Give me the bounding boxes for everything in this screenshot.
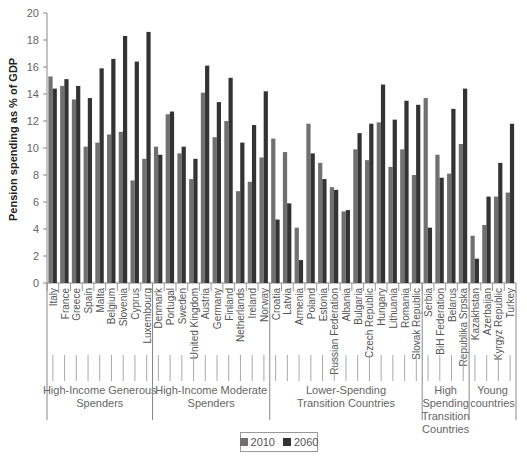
bar-2060 [88, 98, 92, 283]
bar-2010 [377, 122, 381, 283]
y-tick-label: 12 [27, 115, 39, 127]
bar-2060 [334, 190, 338, 283]
category-label: Republika Srpska [458, 288, 469, 367]
y-tick-label: 20 [27, 7, 39, 19]
bar-2060 [463, 89, 467, 283]
category-label: Norway [259, 288, 270, 322]
bar-2010 [259, 157, 263, 283]
bar-2060 [100, 68, 104, 283]
category-label: Lithuania [388, 288, 399, 329]
category-label: BiH Federation [435, 288, 446, 355]
category-label: United Kingdom [189, 288, 200, 359]
bar-2060 [275, 220, 279, 283]
bar-2010 [189, 179, 193, 283]
category-label: Poland [306, 288, 317, 319]
bar-2010 [318, 163, 322, 283]
category-label: Sweden [177, 288, 188, 324]
y-tick-label: 0 [33, 277, 39, 289]
bar-2060 [369, 124, 373, 283]
bar-2060 [311, 153, 315, 283]
bar-2010 [236, 191, 240, 283]
bar-2060 [393, 120, 397, 283]
category-label: Croatia [271, 288, 282, 321]
group-label: High-Income Generous [43, 384, 157, 396]
group-label: Spenders [188, 397, 236, 409]
bar-2010 [283, 152, 287, 283]
category-label: Austria [200, 288, 211, 320]
category-label: Latvia [282, 288, 293, 315]
category-label: Romania [400, 288, 411, 328]
group-label: Countries [422, 423, 470, 435]
legend-label-2060: 2060 [294, 436, 318, 448]
group-label: High-Income Moderate [155, 384, 267, 396]
bar-2010 [166, 114, 170, 283]
y-tick-label: 6 [33, 196, 39, 208]
bar-2060 [357, 133, 361, 283]
category-label: Estonia [318, 288, 329, 322]
bar-2010 [482, 225, 486, 283]
legend-item-2060: 2060 [283, 436, 318, 448]
category-label: Malta [95, 288, 106, 313]
bar-2010 [400, 149, 404, 283]
category-label: Denmark [153, 287, 164, 329]
chart-plot-area: 02468101214161820ItalyFranceGreeceSpainM… [0, 0, 527, 463]
group-label: Spenders [76, 397, 124, 409]
bar-2010 [471, 236, 475, 283]
category-label: Hungary [376, 288, 387, 326]
bar-2060 [475, 259, 479, 283]
category-label: Czech Republic [364, 288, 375, 358]
bar-2010 [84, 147, 88, 283]
category-label: Serbia [423, 288, 434, 317]
bar-2060 [451, 109, 455, 283]
group-label: Transition Countries [297, 397, 396, 409]
bar-2060 [146, 32, 150, 283]
category-label: Spain [83, 288, 94, 314]
bar-2060 [135, 62, 139, 283]
group-label: Spending [422, 397, 469, 409]
bar-2010 [224, 121, 228, 283]
group-label: Young [477, 384, 508, 396]
category-label: Netherlands [235, 288, 246, 342]
category-label: Ireland [247, 288, 258, 319]
bar-2060 [182, 147, 186, 283]
category-label: Cyprus [130, 288, 141, 320]
bar-2010 [201, 93, 205, 283]
bar-2060 [53, 89, 57, 283]
bar-2060 [264, 91, 268, 283]
bar-2010 [306, 124, 310, 283]
bar-2060 [299, 260, 303, 283]
y-tick-label: 2 [33, 250, 39, 262]
bar-2010 [295, 228, 299, 283]
group-label: countries [470, 397, 515, 409]
bar-2010 [459, 144, 463, 283]
bar-2010 [48, 76, 52, 283]
bar-2010 [412, 175, 416, 283]
bar-2010 [248, 182, 252, 283]
bar-2010 [353, 149, 357, 283]
category-label: France [60, 288, 71, 320]
bar-2010 [424, 98, 428, 283]
bar-2060 [205, 66, 209, 283]
bar-2010 [177, 153, 181, 283]
legend-swatch-2010 [240, 438, 248, 446]
bar-2060 [193, 159, 197, 283]
chart-legend: 2010 2060 [240, 432, 318, 452]
category-label: Azerbaijan [482, 288, 493, 335]
bar-2010 [72, 99, 76, 283]
bar-2060 [217, 102, 221, 283]
y-tick-label: 16 [27, 61, 39, 73]
y-tick-label: 8 [33, 169, 39, 181]
bar-2060 [440, 178, 444, 283]
bar-2010 [213, 137, 217, 283]
bar-2060 [252, 125, 256, 283]
y-tick-label: 10 [27, 142, 39, 154]
group-label: Lower-Spending [306, 384, 386, 396]
bar-2060 [76, 86, 80, 283]
bar-2060 [322, 179, 326, 283]
bar-2060 [158, 155, 162, 283]
bar-2060 [229, 78, 233, 283]
category-label: Slovak Republic [411, 288, 422, 360]
bar-2010 [142, 159, 146, 283]
bar-2010 [271, 139, 275, 283]
y-tick-label: 18 [27, 34, 39, 46]
